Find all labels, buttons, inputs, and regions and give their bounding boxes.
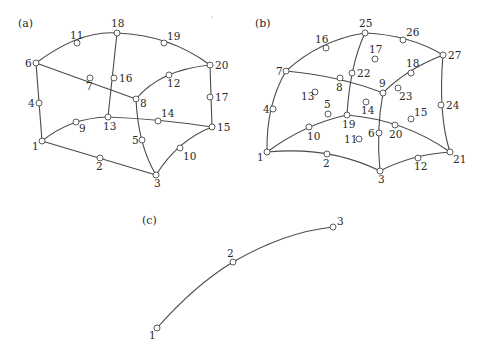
node-circle-icon [111,75,117,81]
node-circle-icon [39,138,45,144]
node-number-label: 2 [227,247,234,259]
node-number-label: 6 [25,57,32,69]
stray-dot [211,16,212,17]
node-number-label: 1 [257,151,264,163]
node-circle-icon [207,62,213,68]
node-number-label: 2 [323,157,330,169]
node-circle-icon [362,30,368,36]
node-number-label: 15 [414,106,427,118]
node-circle-icon [230,259,236,265]
node-number-label: 14 [161,107,175,119]
node-circle-icon [133,96,139,102]
node-circle-icon [33,60,39,66]
node-circle-icon [270,106,276,112]
node-number-label: 8 [336,81,343,93]
element-edge [233,227,333,262]
panel-a-20-node-hexahedron: (a)1234567891011121314151617181920 [18,17,230,189]
node-number-label: 17 [369,43,382,55]
node-number-label: 21 [453,153,466,165]
element-edge [136,99,156,175]
element-diagrams: (a)1234567891011121314151617181920 (b)12… [0,0,487,355]
node-number-label: 7 [86,80,93,92]
element-edge [117,33,210,65]
element-edge [267,71,286,152]
node-number-label: 25 [359,17,372,29]
node-number-label: 20 [215,59,228,71]
node-number-label: 5 [132,134,139,146]
node-circle-icon [349,70,355,76]
node-number-label: 2 [96,160,103,172]
node-number-label: 17 [215,91,228,103]
node-number-label: 12 [167,77,180,89]
node-number-label: 13 [301,90,314,102]
node-circle-icon [380,90,386,96]
node-circle-icon [330,224,336,230]
node-number-label: 4 [263,103,270,115]
node-number-label: 14 [361,104,375,116]
node-number-label: 19 [167,30,180,42]
node-number-label: 26 [406,26,420,38]
node-number-label: 10 [307,130,320,142]
node-number-label: 3 [378,173,385,185]
element-edge [157,262,233,328]
node-number-label: 20 [389,128,402,140]
node-circle-icon [440,52,446,58]
node-number-label: 24 [446,99,460,111]
node-number-label: 19 [342,118,355,130]
panel-label: (b) [255,17,271,30]
node-circle-icon [438,102,444,108]
node-circle-icon [36,100,42,106]
node-number-label: 27 [448,49,461,61]
node-number-label: 22 [357,67,370,79]
node-number-label: 16 [119,72,133,84]
node-circle-icon [283,68,289,74]
node-number-label: 1 [32,140,39,152]
node-number-label: 3 [154,177,161,189]
node-number-label: 3 [337,215,344,227]
node-circle-icon [209,124,215,130]
node-number-label: 7 [276,65,283,77]
node-circle-icon [325,111,331,117]
node-number-label: 5 [324,98,331,110]
node-circle-icon [264,149,270,155]
node-circle-icon [372,56,378,62]
node-number-label: 18 [406,57,419,69]
node-number-label: 4 [28,97,35,109]
node-number-label: 11 [70,29,83,41]
node-circle-icon [114,30,120,36]
node-number-label: 16 [315,33,329,45]
node-number-label: 11 [344,133,357,145]
node-number-label: 9 [79,122,86,134]
node-number-label: 15 [217,121,230,133]
node-number-label: 18 [111,17,124,29]
node-circle-icon [207,94,213,100]
panel-b-27-node-hexahedron: (b)1234567891011121314151617181920212223… [255,17,466,185]
node-number-label: 6 [368,127,375,139]
node-number-label: 8 [140,97,147,109]
node-circle-icon [323,45,329,51]
node-number-label: 9 [379,77,386,89]
panel-label: (c) [142,214,157,227]
panel-c-3-node-line: (c)123 [142,214,344,341]
panel-label: (a) [18,17,33,30]
node-number-label: 12 [414,160,427,172]
node-circle-icon [139,137,145,143]
node-number-label: 1 [149,329,156,341]
node-number-label: 10 [183,150,196,162]
node-number-label: 23 [399,90,412,102]
node-circle-icon [408,70,414,76]
node-number-label: 13 [103,120,116,132]
node-circle-icon [376,130,382,136]
